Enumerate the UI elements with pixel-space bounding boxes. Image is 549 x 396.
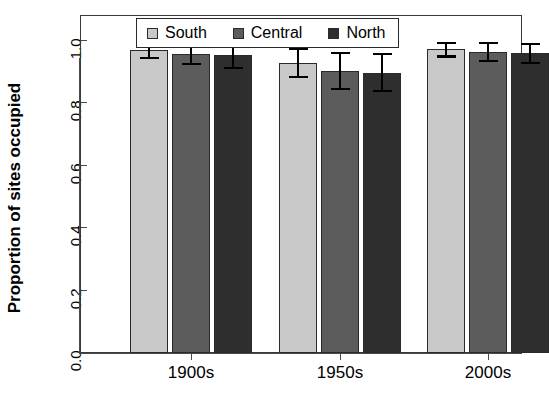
bar-north-1950s [363,73,401,353]
error-bar-cap-lower [437,55,456,57]
bar-north-1900s [214,55,252,353]
bar-central-1900s [172,54,210,353]
x-tick-label-1900s: 1900s [168,363,214,383]
y-axis-title: Proportion of sites occupied [0,0,30,396]
bar-south-1950s [279,63,317,353]
error-bar-cap-upper [437,42,456,44]
plot-area [81,16,521,353]
legend-entry-central: Central [233,24,303,42]
x-tick-mark [191,353,192,360]
bar-north-2000s [511,53,549,353]
error-bar-cap-upper [479,42,498,44]
bar-central-2000s [469,52,507,353]
error-bar-cap-lower [479,60,498,62]
x-axis-line [80,353,522,354]
error-bar-cap-lower [140,57,159,59]
error-bar-stem [297,48,299,79]
error-bar-cap-upper [521,43,540,45]
error-bar-cap-upper [373,53,392,55]
y-axis: 0.00.20.40.60.81.0 [56,15,80,355]
legend-swatch-icon-north [328,28,339,39]
legend-entry-south: South [147,24,207,42]
bar-south-2000s [427,49,465,353]
error-bar-cap-lower [224,67,243,69]
error-bar-cap-upper [331,52,350,54]
legend-swatch-icon-central [233,28,244,39]
error-bar-cap-lower [331,88,350,90]
legend-entry-north: North [328,24,385,42]
bar-central-1950s [321,71,359,353]
error-bar-cap-lower [289,76,308,78]
error-bar-stem [339,52,341,90]
x-tick-mark [340,353,341,360]
legend-label: Central [251,24,303,42]
x-tick-mark [488,353,489,360]
error-bar-stem [381,53,383,93]
legend-label: South [165,24,207,42]
legend-label: North [346,24,385,42]
bar-south-1900s [130,50,168,353]
error-bar-cap-lower [521,62,540,64]
error-bar-cap-lower [182,63,201,65]
x-tick-label-1950s: 1950s [317,363,363,383]
legend-swatch-icon-south [147,28,158,39]
error-bar-stem [529,43,531,65]
chart-legend: SouthCentralNorth [136,18,399,48]
error-bar-cap-lower [373,90,392,92]
x-tick-label-2000s: 2000s [465,363,511,383]
error-bar-cap-upper [289,48,308,50]
